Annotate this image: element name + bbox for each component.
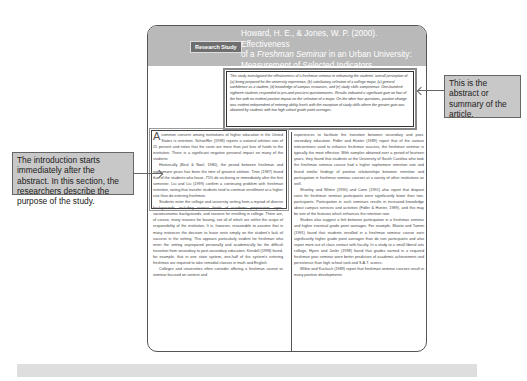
introduction-highlight-box bbox=[151, 130, 287, 209]
article-page: Research Study Howard, H. E., & Jones, W… bbox=[147, 25, 427, 352]
abstract-callout: This is the abstract or summary of the a… bbox=[444, 75, 521, 118]
abstract-box: This study investigated the effectivenes… bbox=[226, 71, 414, 127]
article-title: Howard, H. E., & Jones, W. P. (2000). Ef… bbox=[241, 29, 423, 71]
research-study-badge: Research Study bbox=[190, 41, 242, 53]
column-divider bbox=[291, 132, 292, 352]
column-1: Acommon concern among institutions of hi… bbox=[153, 132, 283, 278]
bottom-strip bbox=[17, 364, 477, 377]
column-2: experiences to facilitate the transition… bbox=[294, 132, 424, 278]
article-header: Research Study Howard, H. E., & Jones, W… bbox=[148, 26, 426, 66]
introduction-callout: The introduction starts immediately afte… bbox=[12, 152, 134, 195]
